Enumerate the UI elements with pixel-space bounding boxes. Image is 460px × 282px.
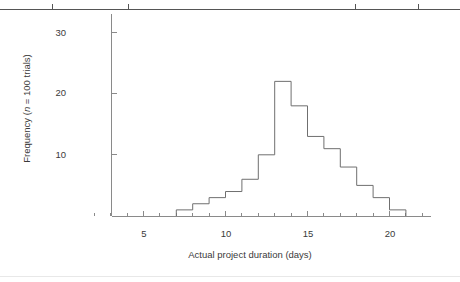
x-tick-marks-major (144, 211, 390, 216)
histogram-figure: Frequency (n = 100 trials) Actual projec… (0, 0, 460, 282)
plot-area (0, 0, 460, 282)
y-tick-marks (112, 32, 117, 154)
histogram-step-outline (176, 81, 406, 216)
axes-group (94, 14, 430, 216)
